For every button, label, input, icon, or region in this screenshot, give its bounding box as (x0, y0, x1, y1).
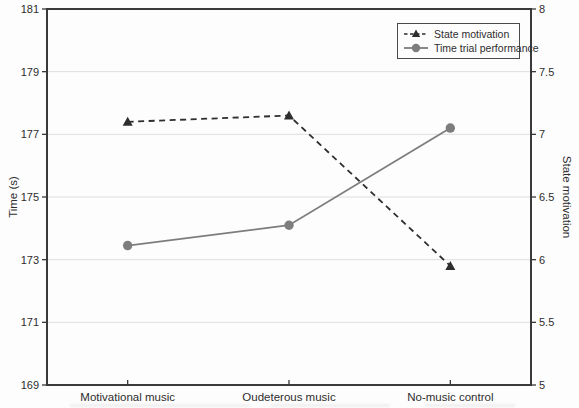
dashed-triangle-marker-icon (403, 28, 429, 40)
left-axis-title: Time (s) (7, 176, 19, 218)
svg-text:175: 175 (21, 191, 39, 203)
chart: 16917117317517717918155.566.577.58Motiva… (0, 0, 579, 408)
svg-text:Oudeterous music: Oudeterous music (242, 391, 336, 403)
legend-item-state-motivation: State motivation (403, 28, 515, 41)
svg-text:169: 169 (21, 379, 39, 391)
svg-text:171: 171 (21, 316, 39, 328)
svg-text:8: 8 (539, 3, 545, 15)
svg-text:173: 173 (21, 254, 39, 266)
legend-label-time-trial-performance: Time trial performance (434, 42, 539, 54)
svg-text:181: 181 (21, 3, 39, 15)
svg-text:5.5: 5.5 (539, 316, 554, 328)
right-axis-title: State motivation (561, 156, 573, 238)
svg-text:7.5: 7.5 (539, 66, 554, 78)
svg-text:6.5: 6.5 (539, 191, 554, 203)
svg-text:6: 6 (539, 254, 545, 266)
svg-text:5: 5 (539, 379, 545, 391)
svg-text:177: 177 (21, 128, 39, 140)
scan-artifact (270, 404, 390, 407)
svg-text:179: 179 (21, 66, 39, 78)
svg-text:No-music control: No-music control (407, 391, 493, 403)
plot-area: 16917117317517717918155.566.577.58Motiva… (0, 0, 579, 408)
svg-text:7: 7 (539, 128, 545, 140)
legend: State motivation Time trial performance (397, 23, 520, 59)
svg-text:Motivational music: Motivational music (80, 391, 175, 403)
legend-label-state-motivation: State motivation (434, 28, 509, 40)
scan-artifact (425, 404, 515, 407)
legend-item-time-trial-performance: Time trial performance (403, 42, 515, 55)
solid-circle-marker-icon (403, 42, 429, 54)
scan-artifact (70, 404, 250, 407)
